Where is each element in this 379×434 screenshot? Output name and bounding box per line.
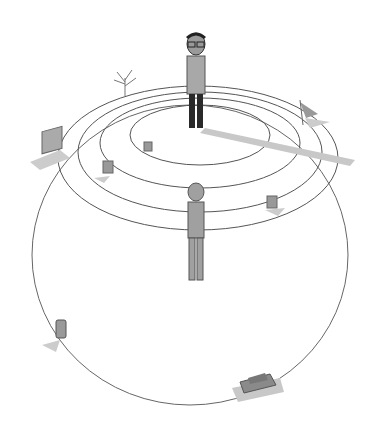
flag	[300, 100, 330, 128]
small-frame-shadow	[94, 176, 110, 183]
man-with-glasses	[187, 33, 205, 128]
small-frame	[103, 161, 113, 173]
illustration	[0, 0, 379, 434]
picture-frame	[30, 126, 70, 170]
man-shadow	[200, 128, 355, 166]
small-frame-shadow	[265, 208, 285, 216]
small-frame	[144, 142, 152, 151]
nude-figure	[188, 183, 204, 280]
bare-tree	[114, 70, 136, 96]
car	[232, 373, 284, 402]
phone	[42, 320, 66, 352]
small-frame	[267, 196, 277, 208]
